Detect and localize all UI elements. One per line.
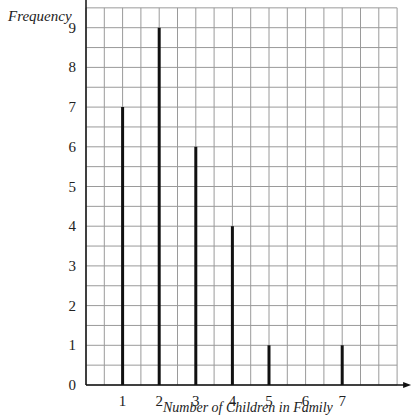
y-tick-label: 8 [69,59,77,75]
x-tick-label: 1 [119,393,127,409]
y-tick-label: 1 [69,337,77,353]
x-tick-label: 2 [155,393,163,409]
y-tick-label: 4 [69,218,77,234]
y-tick-label: 5 [69,179,77,195]
y-tick-label: 6 [69,139,77,155]
x-axis-label: Number of Children in Family [163,400,333,415]
y-tick-label: 9 [69,20,77,36]
y-tick-label: 3 [69,258,77,274]
y-tick-label: 7 [69,99,77,115]
y-tick-label: 0 [69,377,77,393]
frequency-chart: 01234567891234567 [0,0,415,415]
x-tick-label: 7 [338,393,346,409]
y-tick-label: 2 [69,298,77,314]
x-axis-arrow-icon [403,382,411,388]
